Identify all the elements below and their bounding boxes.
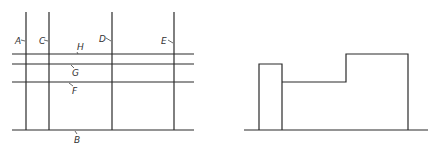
leader-E <box>168 40 173 43</box>
label-F: F <box>72 86 78 96</box>
label-C: C <box>39 36 46 46</box>
leader-D <box>106 38 111 41</box>
stepped-block <box>282 54 408 130</box>
label-E: E <box>161 36 167 46</box>
label-H: H <box>77 42 84 52</box>
narrow-tall-block <box>259 64 282 130</box>
label-G: G <box>72 68 79 78</box>
leader-A <box>21 40 25 41</box>
label-D: D <box>99 34 106 44</box>
label-A: A <box>14 36 21 46</box>
left-line-diagram: A C D E H G F B <box>12 12 194 145</box>
label-B: B <box>74 135 80 145</box>
figure: A C D E H G F B <box>0 0 431 150</box>
right-profile-diagram <box>244 54 428 130</box>
leader-B <box>75 131 77 134</box>
